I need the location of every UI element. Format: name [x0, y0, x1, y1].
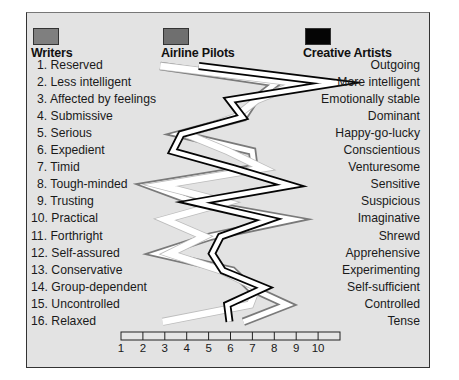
- right-trait-label: Emotionally stable: [321, 92, 420, 106]
- x-tick-label: 8: [271, 342, 277, 354]
- left-trait-label: 8. Tough-minded: [37, 177, 128, 191]
- series-lines: [149, 66, 336, 322]
- left-trait-label: 14. Group-dependent: [31, 280, 147, 294]
- x-tick-label: 3: [162, 342, 168, 354]
- x-tick-label: 2: [140, 342, 146, 354]
- right-trait-label: Venturesome: [348, 160, 420, 174]
- left-trait-label: 1. Reserved: [37, 58, 103, 72]
- right-trait-label: Imaginative: [358, 211, 420, 225]
- right-trait-label: Experimenting: [342, 263, 420, 277]
- right-trait-label: Apprehensive: [345, 246, 420, 260]
- left-trait-label: 15. Uncontrolled: [31, 297, 120, 311]
- right-trait-label: Self-sufficient: [347, 280, 420, 294]
- left-trait-label: 13. Conservative: [31, 263, 122, 277]
- x-tick-label: 6: [227, 342, 233, 354]
- right-trait-label: More intelligent: [337, 75, 420, 89]
- left-trait-label: 9. Trusting: [37, 194, 94, 208]
- x-tick-label: 10: [312, 342, 325, 354]
- right-trait-label: Outgoing: [371, 58, 420, 72]
- right-trait-label: Conscientious: [343, 143, 420, 157]
- right-trait-label: Dominant: [368, 109, 420, 123]
- right-trait-label: Happy-go-lucky: [335, 126, 420, 140]
- left-trait-label: 16. Relaxed: [31, 314, 96, 328]
- left-trait-label: 11. Forthright: [31, 229, 103, 243]
- x-tick-label: 5: [205, 342, 211, 354]
- left-trait-label: 4. Submissive: [37, 109, 113, 123]
- left-trait-label: 6. Expedient: [37, 143, 105, 157]
- left-trait-label: 10. Practical: [31, 211, 98, 225]
- right-trait-label: Shrewd: [379, 229, 420, 243]
- right-trait-label: Controlled: [364, 297, 420, 311]
- left-trait-label: 12. Self-assured: [31, 246, 120, 260]
- x-tick-label: 7: [249, 342, 255, 354]
- legend-swatch-airline-pilots: [163, 28, 189, 45]
- x-tick-label: 4: [183, 342, 189, 354]
- x-tick-label: 1: [118, 342, 124, 354]
- right-trait-label: Suspicious: [361, 194, 420, 208]
- left-trait-label: 3. Affected by feelings: [37, 92, 156, 106]
- left-trait-label: 2. Less intelligent: [37, 75, 131, 89]
- right-trait-label: Tense: [387, 314, 420, 328]
- left-trait-label: 5. Serious: [37, 126, 92, 140]
- x-axis-scale: [121, 332, 340, 340]
- x-tick-label: 9: [293, 342, 299, 354]
- left-trait-label: 7. Timid: [37, 160, 80, 174]
- legend-label-airline-pilots: Airline Pilots: [161, 46, 235, 60]
- right-trait-label: Sensitive: [371, 177, 420, 191]
- legend-swatch-writers: [33, 28, 59, 45]
- legend-swatch-creative-artists: [305, 28, 331, 45]
